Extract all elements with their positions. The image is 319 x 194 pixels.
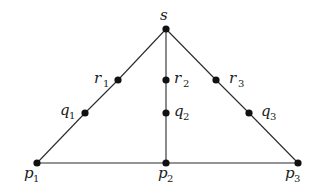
node-label-r1: r [94,69,102,87]
node-subscript-q1: 1 [69,110,75,121]
node-subscript-q3: 3 [270,111,276,122]
nodes-layer [33,25,301,166]
node-subscript-p3: 3 [294,173,300,184]
node-label-r3: r [229,69,237,87]
node-subscript-p1: 1 [33,173,39,184]
node-p1 [33,159,40,166]
node-subscript-r2: 2 [183,78,189,89]
node-s [162,25,169,32]
node-r1 [114,76,121,83]
edge-q1-p1 [37,113,85,163]
node-q2 [162,109,169,116]
node-r2 [162,76,169,83]
edges-layer [37,29,298,163]
node-label-s: s [160,6,168,24]
edge-s-r1 [118,29,166,80]
node-subscript-q2: 2 [183,111,189,122]
node-subscript-p2: 2 [167,173,173,184]
edge-r1-q1 [85,80,118,113]
node-q3 [245,109,252,116]
node-subscript-r1: 1 [103,78,109,89]
node-label-r2: r [174,69,182,87]
node-p3 [294,159,301,166]
node-r3 [212,76,219,83]
node-q1 [81,109,88,116]
graph-diagram: sr1q1r2q2r3q3p1p2p3 [0,0,319,194]
node-subscript-r3: 3 [238,78,244,89]
